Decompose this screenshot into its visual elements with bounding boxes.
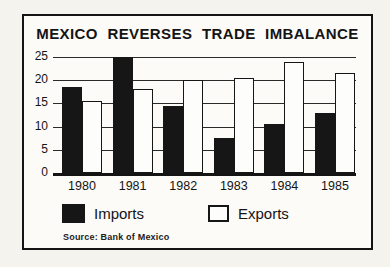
plot-area	[53, 57, 356, 176]
bar-imports-1980	[62, 87, 82, 173]
imports-legend-label: Imports	[94, 205, 144, 222]
y-tick-label-15: 15	[26, 95, 48, 109]
y-tick-label-5: 5	[26, 142, 48, 156]
bar-exports-1985	[335, 73, 355, 173]
bar-imports-1981	[113, 57, 133, 173]
x-tick-label-1985: 1985	[321, 179, 349, 193]
legend: Imports Exports	[62, 204, 289, 223]
bar-exports-1981	[133, 89, 153, 173]
source-note: Source: Bank of Mexico	[63, 232, 169, 242]
exports-legend-swatch	[208, 205, 229, 222]
bar-imports-1985	[315, 113, 335, 173]
y-tick-label-25: 25	[26, 49, 48, 63]
bar-imports-1984	[264, 124, 284, 173]
y-tick-label-0: 0	[26, 165, 48, 179]
page-background: MEXICO REVERSES TRADE IMBALANCE 05101520…	[0, 0, 390, 267]
bar-exports-1982	[183, 80, 203, 173]
x-tick-label-1981: 1981	[119, 179, 147, 193]
bar-exports-1983	[234, 78, 254, 173]
x-axis: 198019811982198319841985	[53, 179, 356, 194]
y-axis: 0510152025	[26, 57, 50, 173]
x-tick-label-1980: 1980	[68, 179, 96, 193]
y-tick-label-20: 20	[26, 72, 48, 86]
bar-exports-1984	[284, 62, 304, 173]
bar-exports-1980	[82, 101, 102, 173]
gridline-20	[53, 80, 356, 81]
y-tick-label-10: 10	[26, 119, 48, 133]
exports-legend-label: Exports	[238, 205, 289, 222]
imports-legend-swatch	[62, 204, 85, 223]
x-tick-label-1984: 1984	[270, 179, 298, 193]
bar-imports-1983	[214, 138, 234, 173]
chart-title: MEXICO REVERSES TRADE IMBALANCE	[24, 25, 371, 42]
x-tick-label-1982: 1982	[169, 179, 197, 193]
chart-card: MEXICO REVERSES TRADE IMBALANCE 05101520…	[22, 14, 373, 250]
gridline-25	[53, 57, 356, 58]
x-tick-label-1983: 1983	[220, 179, 248, 193]
bar-imports-1982	[163, 106, 183, 173]
